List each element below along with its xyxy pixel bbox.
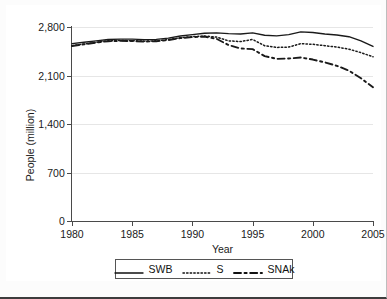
- x-axis-line: [71, 221, 374, 222]
- legend-label: S: [217, 263, 224, 275]
- legend-item-snak[interactable]: SNAk: [233, 263, 295, 275]
- plot-area: 07001,4002,1002,800 19801985199019952000…: [72, 27, 373, 221]
- y-axis-tick-label: 0: [59, 215, 65, 227]
- series-lines: [72, 27, 373, 221]
- legend-label: SWB: [149, 263, 173, 275]
- x-axis-tick: [373, 221, 374, 226]
- legend-swatch-swb: [114, 264, 144, 274]
- x-axis-tick: [253, 221, 254, 226]
- x-axis-tick: [192, 221, 193, 226]
- legend-item-s[interactable]: S: [182, 263, 224, 275]
- x-axis-label: Year: [72, 243, 373, 255]
- legend-label: SNAk: [268, 263, 295, 275]
- y-axis-tick-label: 2,800: [38, 21, 65, 33]
- x-axis-tick-label: 1985: [121, 228, 144, 240]
- x-axis-tick-label: 1995: [241, 228, 264, 240]
- x-axis-tick-label: 2005: [361, 228, 384, 240]
- x-axis-tick-label: 1990: [181, 228, 204, 240]
- figure-canvas: People (million) 07001,4002,1002,800 198…: [6, 5, 381, 281]
- x-axis-tick: [132, 221, 133, 226]
- x-axis-tick-label: 1980: [60, 228, 83, 240]
- y-axis-label: People (million): [24, 75, 36, 215]
- y-axis-tick-label: 2,100: [38, 70, 65, 82]
- y-axis-tick-label: 700: [47, 167, 65, 179]
- legend-swatch-s: [182, 264, 212, 274]
- y-axis-tick-label: 1,400: [38, 118, 65, 130]
- legend-swatch-snak: [233, 264, 263, 274]
- series-line-snak: [72, 37, 373, 88]
- x-axis-tick: [313, 221, 314, 226]
- y-axis-label-container: People (million): [14, 27, 30, 221]
- chart-legend: SWBSSNAk: [115, 259, 293, 279]
- legend-item-swb[interactable]: SWB: [114, 263, 173, 275]
- x-axis-tick-label: 2000: [301, 228, 324, 240]
- image-frame: People (million) 07001,4002,1002,800 198…: [0, 0, 387, 299]
- x-axis-tick: [72, 221, 73, 226]
